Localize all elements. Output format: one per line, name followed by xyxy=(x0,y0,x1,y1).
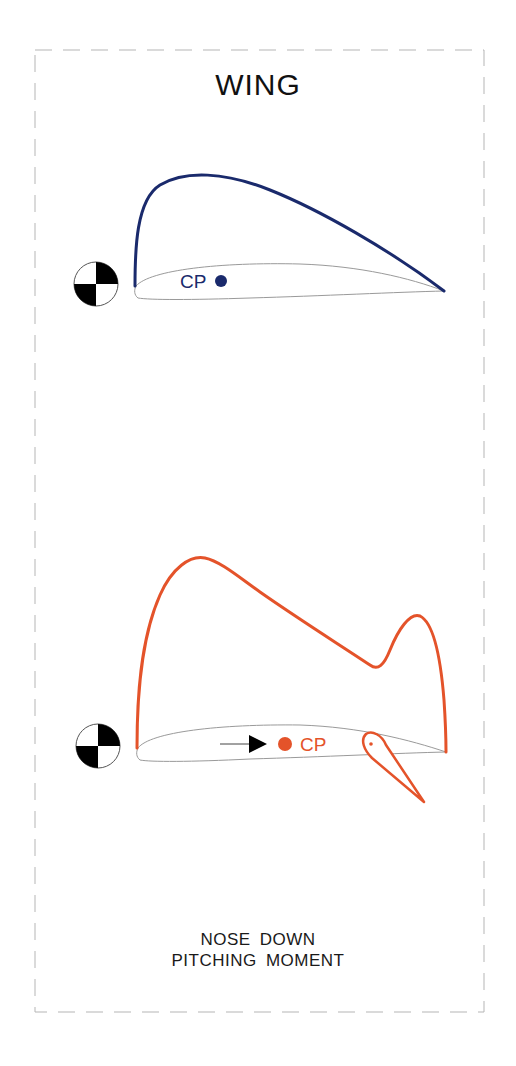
page-title: WING xyxy=(0,68,516,102)
cp-marker xyxy=(278,737,292,751)
cp-label-upper: CP xyxy=(180,271,206,293)
caption-line-1: NOSE DOWN xyxy=(0,930,516,950)
caption-line-2: PITCHING MOMENT xyxy=(0,951,516,971)
diagram-canvas xyxy=(0,0,516,1066)
arrow-right-icon xyxy=(249,735,267,753)
lower-diagram xyxy=(76,558,446,802)
lift-distribution-curve xyxy=(137,558,446,752)
upper-diagram xyxy=(74,175,444,306)
cp-marker xyxy=(215,275,227,287)
flap-hinge-icon xyxy=(369,742,373,746)
cg-icon xyxy=(74,262,118,306)
diagram-frame: WING CP CP NOSE DOWN PITCHING MOMENT xyxy=(0,0,516,1066)
dashed-border xyxy=(35,50,484,1012)
cg-icon xyxy=(76,724,120,768)
cp-label-lower: CP xyxy=(300,734,326,756)
